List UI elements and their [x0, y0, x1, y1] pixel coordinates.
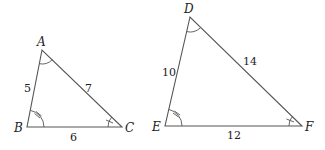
- vertex-a-label: A: [36, 35, 46, 49]
- side-ab-label: 5: [24, 82, 31, 95]
- similar-triangles-diagram: A B C 5 7 6 D E F 10 14 12: [0, 0, 325, 150]
- vertex-e-label: E: [151, 120, 161, 134]
- side-df-label: 14: [243, 55, 257, 68]
- side-bc-label: 6: [70, 131, 77, 144]
- side-de-label: 10: [162, 66, 176, 79]
- side-ef-label: 12: [227, 129, 241, 142]
- side-ac-label: 7: [85, 82, 92, 95]
- vertex-b-label: B: [13, 121, 23, 135]
- angle-a-arc: [39, 60, 52, 64]
- vertex-d-label: D: [183, 2, 194, 16]
- triangle-def: D E F 10 14 12: [151, 2, 314, 142]
- triangle-def-outline: [165, 17, 302, 126]
- vertex-c-label: C: [125, 121, 134, 135]
- vertex-f-label: F: [304, 120, 314, 134]
- triangle-abc: A B C 5 7 6: [13, 35, 134, 144]
- angle-d-arc: [187, 28, 201, 32]
